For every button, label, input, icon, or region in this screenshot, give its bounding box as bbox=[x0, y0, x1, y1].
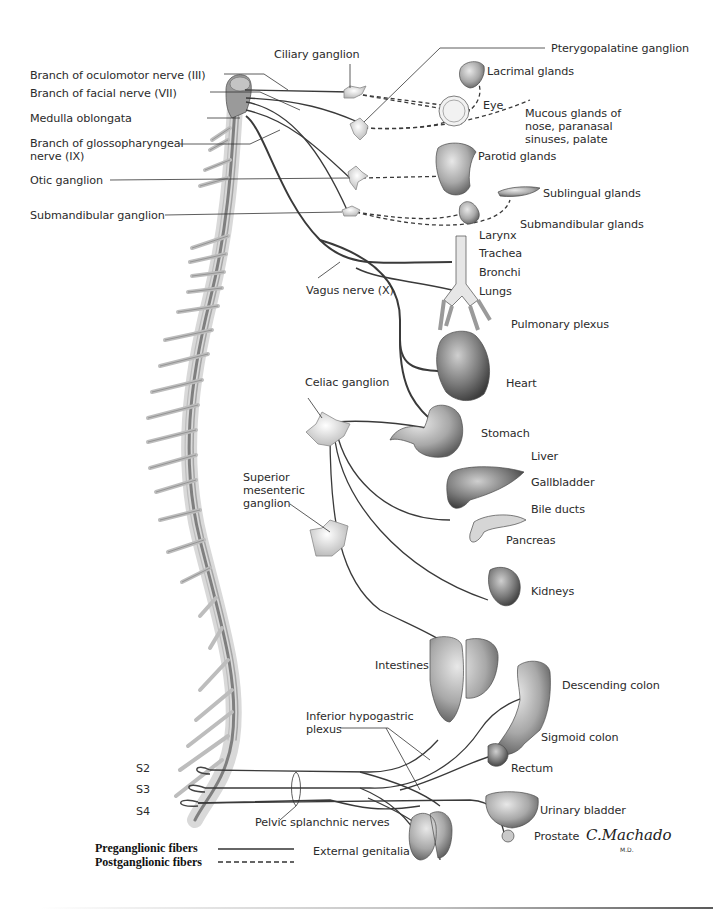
label-lacrimal-glands: Lacrimal glands bbox=[487, 65, 574, 78]
parotid-gland-shape bbox=[436, 143, 476, 195]
label-external-genitalia: External genitalia bbox=[313, 845, 410, 858]
sublingual-gland-shape bbox=[498, 187, 540, 197]
label-eye: Eye bbox=[483, 99, 503, 112]
legend-postganglionic-label: Postganglionic fibers bbox=[95, 855, 202, 870]
label-pelvic-splanchnic-nerves: Pelvic splanchnic nerves bbox=[255, 816, 389, 829]
ciliary-ganglion-shape bbox=[344, 86, 366, 98]
label-prostate: Prostate bbox=[534, 830, 579, 843]
label-pancreas: Pancreas bbox=[506, 534, 555, 547]
external-genitalia-shape bbox=[409, 812, 452, 860]
artist-signature: C.Machado bbox=[586, 826, 672, 844]
label-submandibular-glands: Submandibular glands bbox=[520, 218, 644, 231]
label-kidneys: Kidneys bbox=[531, 585, 574, 598]
label-inferior-hypogastric-plexus: Inferior hypogastric plexus bbox=[306, 710, 414, 736]
legend-preganglionic-label: Preganglionic fibers bbox=[95, 841, 198, 856]
brainstem bbox=[226, 75, 251, 118]
lungs-bronchi-shape bbox=[440, 300, 490, 330]
label-sigmoid-colon: Sigmoid colon bbox=[541, 731, 619, 744]
celiac-ganglion-shape bbox=[306, 412, 350, 446]
label-mucous-glands: Mucous glands of nose, paranasal sinuses… bbox=[525, 107, 621, 146]
label-trachea: Trachea bbox=[479, 247, 522, 260]
parasympathetic-diagram: Branch of oculomotor nerve (III) Branch … bbox=[0, 0, 713, 909]
lacrimal-gland-shape bbox=[459, 62, 484, 88]
urinary-bladder-shape bbox=[486, 792, 539, 828]
artist-signature-suffix: M.D. bbox=[620, 846, 634, 853]
label-submandibular-ganglion: Submandibular ganglion bbox=[30, 209, 165, 222]
label-glossopharyngeal-nerve: Branch of glossopharyngeal nerve (IX) bbox=[30, 137, 184, 163]
heart-shape bbox=[437, 331, 490, 400]
label-rectum: Rectum bbox=[511, 762, 553, 775]
label-heart: Heart bbox=[506, 377, 537, 390]
intestines-shape bbox=[430, 637, 498, 722]
label-larynx: Larynx bbox=[479, 229, 516, 242]
label-gallbladder: Gallbladder bbox=[531, 476, 594, 489]
ganglia bbox=[306, 86, 368, 556]
label-stomach: Stomach bbox=[481, 427, 530, 440]
label-celiac-ganglion: Celiac ganglion bbox=[305, 376, 389, 389]
label-vagus-nerve: Vagus nerve (X) bbox=[306, 284, 394, 297]
eye-shape bbox=[439, 96, 469, 126]
organs bbox=[390, 62, 550, 860]
stomach-shape bbox=[390, 405, 463, 457]
label-ciliary-ganglion: Ciliary ganglion bbox=[274, 48, 359, 61]
pterygopalatine-ganglion-shape bbox=[350, 118, 368, 140]
label-sacral-s4: S4 bbox=[136, 805, 150, 818]
label-facial-nerve: Branch of facial nerve (VII) bbox=[30, 87, 177, 100]
label-bile-ducts: Bile ducts bbox=[531, 503, 585, 516]
label-superior-mesenteric-ganglion: Superior mesenteric ganglion bbox=[243, 471, 305, 510]
legend-swatches bbox=[218, 849, 294, 862]
kidney-shape bbox=[488, 567, 520, 605]
label-pterygopalatine-ganglion: Pterygopalatine ganglion bbox=[551, 42, 689, 55]
otic-ganglion-shape bbox=[348, 166, 368, 190]
label-lungs: Lungs bbox=[479, 285, 512, 298]
label-medulla-oblongata: Medulla oblongata bbox=[30, 112, 132, 125]
submandibular-gland-shape bbox=[459, 202, 479, 224]
trachea-shape bbox=[444, 236, 478, 306]
label-urinary-bladder: Urinary bladder bbox=[540, 804, 626, 817]
label-pulmonary-plexus: Pulmonary plexus bbox=[511, 318, 609, 331]
prostate-shape bbox=[502, 830, 514, 842]
submandibular-ganglion-shape bbox=[342, 206, 360, 216]
label-sacral-s2: S2 bbox=[136, 762, 150, 775]
label-parotid-glands: Parotid glands bbox=[478, 150, 556, 163]
label-descending-colon: Descending colon bbox=[562, 679, 660, 692]
label-otic-ganglion: Otic ganglion bbox=[30, 174, 103, 187]
label-oculomotor-nerve: Branch of oculomotor nerve (III) bbox=[30, 69, 206, 82]
label-liver: Liver bbox=[531, 450, 558, 463]
label-sublingual-glands: Sublingual glands bbox=[543, 187, 641, 200]
label-intestines: Intestines bbox=[375, 659, 429, 672]
label-bronchi: Bronchi bbox=[479, 266, 521, 279]
liver-shape bbox=[447, 467, 524, 509]
label-sacral-s3: S3 bbox=[136, 783, 150, 796]
